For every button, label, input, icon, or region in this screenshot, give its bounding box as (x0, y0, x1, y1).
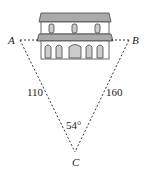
point-c-label: C (72, 157, 79, 168)
diagram-svg (0, 0, 150, 174)
point-b-label: B (132, 35, 139, 46)
angle-c-label: 54° (66, 120, 81, 131)
point-a-label: A (8, 35, 15, 46)
side-bc-length: 160 (106, 87, 123, 98)
triangle-diagram: A B C 110 160 54° (0, 0, 150, 174)
building-icon (37, 13, 113, 59)
side-ac-length: 110 (27, 87, 43, 98)
